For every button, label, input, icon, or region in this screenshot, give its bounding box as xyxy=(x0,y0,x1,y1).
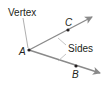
sides-caption: Sides xyxy=(68,43,93,54)
angle-figure: Vertex A C B Sides xyxy=(0,0,107,87)
point-a-label: A xyxy=(18,46,26,57)
point-a xyxy=(27,48,30,51)
vertex-caption: Vertex xyxy=(8,7,36,18)
point-b xyxy=(74,64,77,67)
point-c xyxy=(66,28,69,31)
point-c-label: C xyxy=(65,17,73,28)
sides-leader-lower xyxy=(58,54,66,61)
sides-leader-upper xyxy=(58,38,66,45)
angle-diagram: Vertex A C B Sides xyxy=(0,0,107,87)
point-b-label: B xyxy=(72,69,79,80)
vertex-leader-line xyxy=(23,18,28,48)
